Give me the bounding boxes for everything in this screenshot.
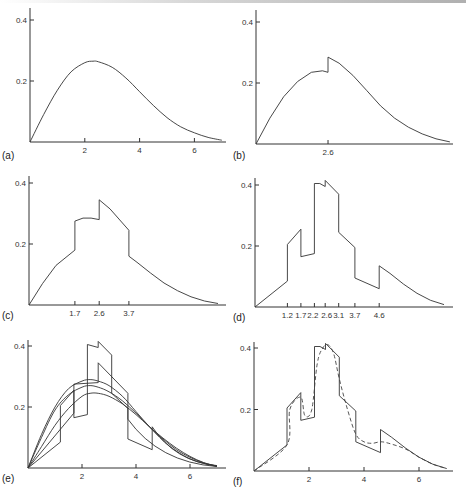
x-tick-label: 6	[188, 472, 193, 481]
panel-label: (b)	[233, 150, 245, 161]
panel-a: 0.40.2246(a)	[2, 8, 226, 161]
x-tick-label: 4	[362, 475, 367, 484]
panel-d: 0.40.21.21.72.22.63.13.74.6(d)	[233, 178, 453, 323]
y-tick-label: 0.2	[15, 240, 27, 249]
x-tick-label: 2.6	[321, 311, 333, 320]
y-tick-label: 0.2	[240, 406, 252, 415]
panel-f: 0.40.2246(f)	[233, 342, 453, 487]
figure-canvas: 0.40.2246(a)0.40.22.6(b)0.40.21.72.63.7(…	[0, 0, 466, 503]
y-tick-label: 0.2	[241, 242, 253, 251]
x-tick-label: 2	[307, 475, 312, 484]
density-curve	[30, 61, 222, 142]
density-curve	[28, 363, 217, 468]
panel-b: 0.40.22.6(b)	[233, 10, 453, 161]
panel-e: 0.40.2246(e)	[2, 340, 226, 484]
panel-c: 0.40.21.72.63.7(c)	[2, 176, 226, 321]
x-tick-label: 2.2	[307, 311, 319, 320]
panel-label: (a)	[2, 150, 14, 161]
x-tick-label: 2.6	[94, 309, 106, 318]
x-tick-label: 3.7	[349, 311, 361, 320]
y-tick-label: 0.4	[16, 16, 28, 25]
y-tick-label: 0.2	[14, 403, 26, 412]
y-tick-label: 0.4	[242, 18, 254, 27]
x-tick-label: 2	[80, 472, 85, 481]
x-tick-label: 1.7	[69, 309, 81, 318]
x-tick-label: 4.6	[374, 311, 386, 320]
x-tick-label: 4	[134, 472, 139, 481]
density-curve	[256, 57, 450, 144]
panel-label: (f)	[233, 476, 242, 487]
x-tick-label: 3.1	[333, 311, 345, 320]
density-curve	[29, 200, 218, 305]
x-tick-label: 4	[137, 146, 142, 155]
y-tick-label: 0.2	[242, 79, 254, 88]
x-tick-label: 1.7	[295, 311, 307, 320]
panel-label: (d)	[233, 312, 245, 323]
x-tick-label: 6	[192, 146, 197, 155]
x-tick-label: 2	[83, 146, 88, 155]
x-tick-label: 6	[417, 475, 422, 484]
y-tick-label: 0.4	[240, 344, 252, 353]
y-tick-label: 0.4	[14, 342, 26, 351]
density-curve	[255, 180, 444, 307]
y-tick-label: 0.2	[16, 77, 28, 86]
panel-label: (c)	[2, 310, 14, 321]
x-tick-label: 2.6	[322, 148, 334, 157]
density-curve	[254, 343, 447, 471]
dashed-density-curve	[254, 345, 447, 471]
y-tick-label: 0.4	[241, 181, 253, 190]
y-tick-label: 0.4	[15, 179, 27, 188]
x-tick-label: 1.2	[282, 311, 294, 320]
x-tick-label: 3.7	[123, 309, 135, 318]
panel-label: (e)	[2, 473, 14, 484]
